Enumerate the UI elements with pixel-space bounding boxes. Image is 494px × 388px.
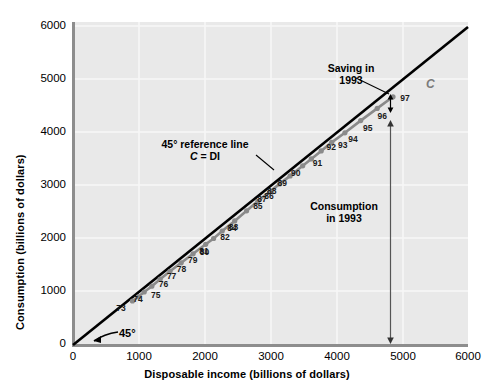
- point-label-78: 78: [177, 264, 186, 274]
- y-tick-4000: 4000: [10, 125, 66, 137]
- consumption-function-chart: Consumption (billions of dollars) Dispos…: [0, 0, 494, 388]
- annotation-consumption-1993: Consumption in 1993: [294, 200, 394, 224]
- x-tick-2000: 2000: [175, 350, 235, 362]
- y-tick-6000: 6000: [10, 19, 66, 31]
- annotation-saving-line2: 1993: [339, 74, 362, 86]
- annotation-reference-eq: = DI: [198, 150, 220, 162]
- point-label-90: 90: [291, 168, 300, 178]
- annotation-consumption-line1: Consumption: [310, 200, 378, 212]
- plot-canvas: [0, 0, 494, 388]
- point-label-77: 77: [167, 271, 176, 281]
- annotation-saving-line1: Saving in: [328, 62, 375, 74]
- point-label-88: 88: [267, 186, 276, 196]
- point-label-91: 91: [313, 158, 322, 168]
- annotation-saving-1993: Saving in 1993: [306, 62, 396, 86]
- y-tick-2000: 2000: [10, 231, 66, 243]
- point-label-95: 95: [363, 123, 372, 133]
- point-label-87: 87: [257, 194, 266, 204]
- annotation-reference-line1: 45° reference line: [161, 138, 248, 150]
- x-tick-0: 0: [43, 350, 103, 362]
- annotation-reference-line: 45° reference line C = DI: [150, 138, 260, 162]
- x-tick-6000: 6000: [438, 350, 494, 362]
- x-axis-title: Disposable income (billions of dollars): [0, 368, 494, 380]
- point-label-81: 81: [199, 246, 208, 256]
- y-tick-0: 0: [10, 337, 66, 349]
- point-label-73: 73: [116, 303, 125, 313]
- point-label-82: 82: [220, 232, 229, 242]
- point-label-84: 84: [227, 223, 236, 233]
- x-tick-1000: 1000: [109, 350, 169, 362]
- x-tick-5000: 5000: [373, 350, 433, 362]
- point-label-97: 97: [400, 93, 409, 103]
- annotation-consumption-line2: in 1993: [326, 212, 362, 224]
- point-label-93: 93: [338, 140, 347, 150]
- annotation-angle-45: 45°: [119, 327, 136, 339]
- point-label-94: 94: [348, 134, 357, 144]
- point-label-79: 79: [188, 255, 197, 265]
- point-label-75: 75: [151, 290, 160, 300]
- point-label-96: 96: [377, 111, 386, 121]
- annotation-reference-c: C: [190, 150, 198, 162]
- y-tick-1000: 1000: [10, 284, 66, 296]
- point-label-92: 92: [327, 142, 336, 152]
- y-tick-5000: 5000: [10, 72, 66, 84]
- point-label-74: 74: [133, 294, 142, 304]
- point-label-89: 89: [278, 178, 287, 188]
- x-tick-3000: 3000: [241, 350, 301, 362]
- series-c-label: C: [426, 77, 435, 91]
- x-tick-4000: 4000: [307, 350, 367, 362]
- y-tick-3000: 3000: [10, 178, 66, 190]
